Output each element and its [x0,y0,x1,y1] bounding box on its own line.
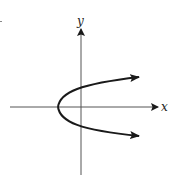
parabola-upper-branch [58,77,139,107]
x-axis-label: x [161,100,168,114]
parabola-diagram: x y [0,0,172,181]
parabola-lower-branch [58,107,139,136]
y-axis-label: y [76,14,84,28]
diagram-canvas: x y [0,0,172,181]
stray-mark [0,21,2,22]
